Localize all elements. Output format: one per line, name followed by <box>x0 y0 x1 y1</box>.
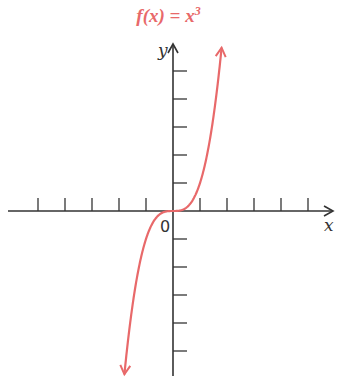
x-axis-label: x <box>324 215 334 235</box>
origin-label: 0 <box>160 217 170 236</box>
y-axis-label: y <box>157 40 168 60</box>
plot-area: xy0 <box>0 0 337 384</box>
